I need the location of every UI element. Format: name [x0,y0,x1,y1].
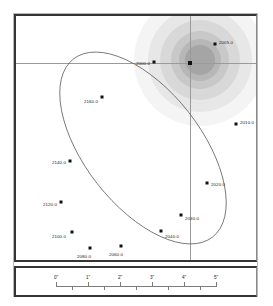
epoch-marker [60,201,63,204]
scale-tick-major [184,282,185,287]
scale-tick-major [120,282,121,287]
epoch-label: 2160.0 [84,99,98,104]
epoch-label: 2030.0 [185,216,199,221]
epoch-marker [235,123,238,126]
scale-tick-label: 1" [86,275,90,280]
scale-tick-label: 5" [214,275,218,280]
scale-tick-label: 2" [118,275,122,280]
epoch-label: 2005.0 [219,40,233,45]
epoch-label: 2140.0 [52,160,66,165]
epoch-label: 2040.0 [165,234,179,239]
epoch-marker [153,61,156,64]
scale-tick-label: 4" [182,275,186,280]
scale-tick-minor [72,287,73,290]
epoch-marker [206,182,209,185]
scale-tick-major [88,282,89,287]
scale-tick-major [152,282,153,287]
epoch-marker [69,160,72,163]
scale-bar-panel: 0"1"2"3"4"5" [14,266,257,297]
orbit-figure: 2005.02010.02020.02030.02040.02060.02080… [0,0,273,306]
epoch-marker [180,214,183,217]
epoch-marker [71,231,74,234]
orbit-ellipse-path [16,16,257,262]
epoch-marker [101,96,104,99]
epoch-label: 2080.0 [77,254,91,259]
epoch-marker [120,245,123,248]
epoch-marker [214,43,217,46]
scale-tick-minor [168,287,169,290]
scale-tick-minor [136,287,137,290]
orbit-plot-panel: 2005.02010.02020.02030.02040.02060.02080… [14,14,257,262]
scale-tick-label: 3" [150,275,154,280]
primary-star-marker [188,61,192,65]
epoch-label: 2020.0 [211,182,225,187]
epoch-marker [89,247,92,250]
epoch-label: 2060.0 [109,252,123,257]
scale-tick-label: 0" [54,275,58,280]
epoch-label: 2010.0 [240,120,254,125]
epoch-label: 2120.0 [43,202,57,207]
scale-tick-major [216,282,217,287]
epoch-marker [160,230,163,233]
epoch-label: 2000.0 [136,61,150,66]
scale-tick-minor [104,287,105,290]
scale-tick-major [56,282,57,287]
scale-tick-minor [200,287,201,290]
epoch-label: 2100.0 [52,234,66,239]
